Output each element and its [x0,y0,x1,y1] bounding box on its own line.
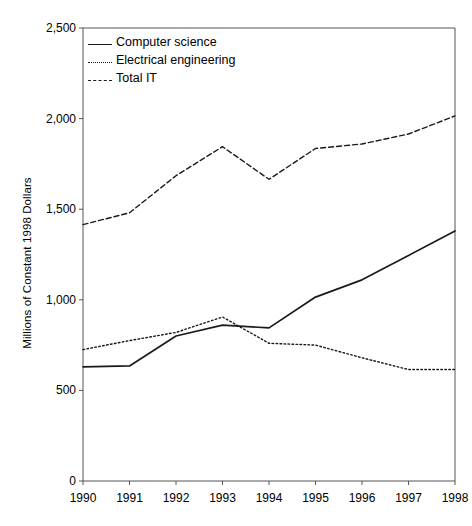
plot-canvas [0,0,472,526]
line-chart: Millions of Constant 1998 Dollars 05001,… [0,0,472,526]
series-line [83,317,455,370]
series-line [83,231,455,367]
series-lines [83,116,455,370]
series-line [83,116,455,225]
axis-spines [79,28,455,485]
